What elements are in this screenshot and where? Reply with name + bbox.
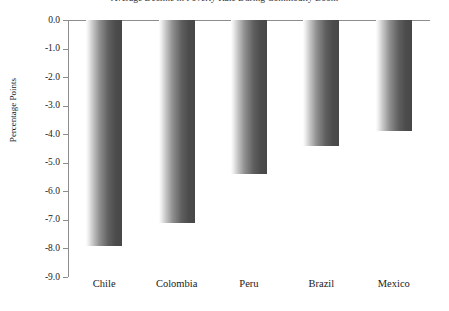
y-tick: -7.0 <box>63 220 68 221</box>
category-label-chile: Chile <box>68 277 140 290</box>
y-tick-label: -8.0 <box>45 242 60 254</box>
y-tick-label: -3.0 <box>45 99 60 111</box>
bar-colombia <box>159 20 195 223</box>
bar-brazil <box>303 20 339 146</box>
y-tick-label: -6.0 <box>45 185 60 197</box>
y-tick: -3.0 <box>63 106 68 107</box>
y-tick-label: -7.0 <box>45 213 60 225</box>
y-tick: -5.0 <box>63 163 68 164</box>
y-tick-label: -4.0 <box>45 128 60 140</box>
y-tick-label: -1.0 <box>45 42 60 54</box>
y-tick-label: -5.0 <box>45 156 60 168</box>
bar-chart-figure: Average Decline in Poverty Rate During C… <box>0 0 449 311</box>
y-tick: -8.0 <box>63 248 68 249</box>
y-axis-line <box>68 20 69 277</box>
y-tick: -2.0 <box>63 77 68 78</box>
bar-mexico <box>376 20 412 131</box>
bar-chile <box>86 20 122 246</box>
plot-area: 0.0-1.0-2.0-3.0-4.0-5.0-6.0-7.0-8.0-9.0 <box>68 20 430 277</box>
category-label-brazil: Brazil <box>285 277 357 290</box>
category-label-peru: Peru <box>213 277 285 290</box>
category-label-colombia: Colombia <box>140 277 212 290</box>
y-tick: 0.0 <box>63 20 68 21</box>
y-tick: -6.0 <box>63 191 68 192</box>
category-label-mexico: Mexico <box>358 277 430 290</box>
y-tick-label: 0.0 <box>48 14 60 26</box>
y-tick: -1.0 <box>63 49 68 50</box>
chart-title: Average Decline in Poverty Rate During C… <box>0 0 449 4</box>
y-tick: -4.0 <box>63 134 68 135</box>
y-tick-label: -2.0 <box>45 71 60 83</box>
bar-peru <box>231 20 267 174</box>
y-axis-title: Percentage Points <box>8 50 18 170</box>
y-tick-label: -9.0 <box>45 271 60 283</box>
